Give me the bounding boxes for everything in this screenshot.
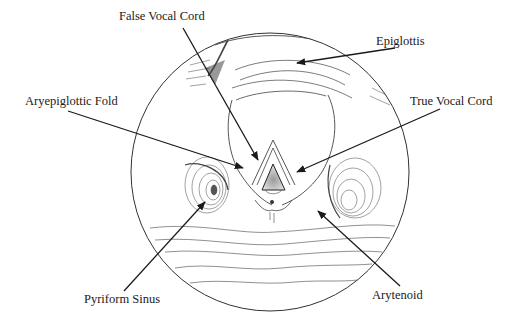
leader-arytenoid <box>318 211 400 286</box>
pharyngeal-wall-folds <box>150 225 395 283</box>
leader-aryepiglottic-fold <box>68 111 243 168</box>
right-pyriform-swirl <box>328 158 381 218</box>
leader-pyriform-sinus <box>124 202 205 291</box>
label-false-vocal-cord: False Vocal Cord <box>119 10 205 23</box>
leader-epiglottis <box>297 48 395 63</box>
leader-false-vocal-cord <box>183 28 258 160</box>
label-aryepiglottic-fold: Aryepiglottic Fold <box>25 95 118 108</box>
larynx-illustration <box>0 0 516 330</box>
label-epiglottis: Epiglottis <box>376 35 425 48</box>
label-arytenoid: Arytenoid <box>372 289 423 302</box>
label-true-vocal-cord: True Vocal Cord <box>410 95 492 108</box>
left-pyriform-swirl <box>185 157 229 213</box>
label-pyriform-sinus: Pyriform Sinus <box>84 293 160 306</box>
anatomy-drawing <box>150 36 400 284</box>
larynx-diagram: False Vocal Cord Epiglottis Aryepiglotti… <box>0 0 516 330</box>
